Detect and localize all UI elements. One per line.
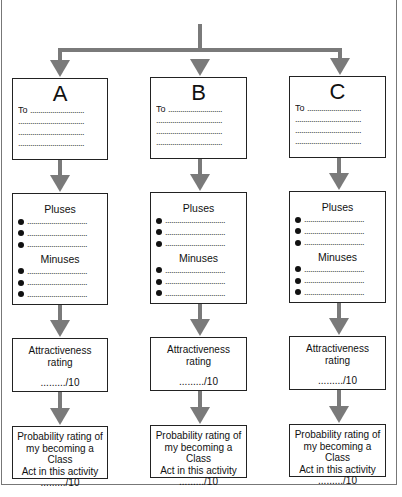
bullet-icon <box>156 229 162 235</box>
probability-score[interactable]: ........./10 <box>290 475 385 487</box>
blank-line[interactable]: ................................. <box>156 126 241 137</box>
probability-score[interactable]: ........./10 <box>13 477 107 489</box>
option-box-c: C To ........................... .......… <box>289 76 386 158</box>
minus-item[interactable]: .............................. <box>295 287 377 299</box>
plus-item[interactable]: .............................. <box>18 239 100 251</box>
plus-item[interactable]: .............................. <box>18 216 100 228</box>
arrow-head-icon <box>329 318 349 335</box>
to-field[interactable]: To ........................... <box>18 105 103 116</box>
arrow-stem <box>198 159 202 175</box>
arrow-stem <box>337 158 341 174</box>
pluses-heading: Pluses <box>151 202 246 214</box>
bullet-icon <box>156 241 162 247</box>
attractiveness-score[interactable]: ........./10 <box>13 377 107 389</box>
plus-item[interactable]: .............................. <box>295 214 377 226</box>
minus-item[interactable]: .............................. <box>18 277 100 289</box>
attractiveness-box-b: Attractiveness rating ........./10 <box>150 337 247 391</box>
arrow-head-icon <box>50 60 70 77</box>
pluses-minuses-box-c: Pluses .............................. ..… <box>289 191 386 303</box>
option-letter: A <box>13 83 107 105</box>
arrow-head-icon <box>190 59 210 76</box>
arrow-stem <box>198 304 202 320</box>
to-field[interactable]: To ........................... <box>156 104 241 115</box>
arrow-head-icon <box>329 406 349 423</box>
bullet-icon <box>156 290 162 296</box>
plus-item[interactable]: .............................. <box>295 237 377 249</box>
arrow-head-icon <box>50 408 70 425</box>
bullet-icon <box>18 280 24 286</box>
minuses-heading: Minuses <box>13 253 107 265</box>
plus-item[interactable]: .............................. <box>156 238 238 250</box>
root-arrow-stem <box>198 24 202 51</box>
minus-item[interactable]: .............................. <box>156 276 238 288</box>
probability-label: Probability rating of <box>13 431 107 443</box>
bullet-icon <box>156 218 162 224</box>
pluses-minuses-box-b: Pluses .............................. ..… <box>150 192 247 304</box>
bullet-icon <box>295 228 301 234</box>
option-box-a: A To ........................... .......… <box>12 78 108 160</box>
blank-line[interactable]: ................................. <box>295 114 380 125</box>
pluses-heading: Pluses <box>290 201 385 213</box>
branch-connector <box>58 48 342 52</box>
bullet-icon <box>295 278 301 284</box>
attractiveness-label: rating <box>13 357 107 369</box>
attractiveness-box-c: Attractiveness rating ........./10 <box>289 336 386 390</box>
arrow-head-icon <box>329 173 349 190</box>
option-box-b: B To ........................... .......… <box>150 77 247 159</box>
minus-item[interactable]: .............................. <box>156 265 238 277</box>
minus-item[interactable]: .............................. <box>156 288 238 300</box>
bullet-icon <box>18 242 24 248</box>
plus-item[interactable]: .............................. <box>156 227 238 239</box>
to-field[interactable]: To ........................... <box>295 103 380 114</box>
probability-label: Act in this activity <box>290 464 385 476</box>
minus-item[interactable]: .............................. <box>18 266 100 278</box>
arrow-stem <box>58 305 62 321</box>
arrow-head-icon <box>330 58 350 75</box>
bullet-icon <box>156 279 162 285</box>
probability-score[interactable]: ........./10 <box>151 476 246 488</box>
probability-label: my becoming a Class <box>151 442 246 465</box>
to-label: To <box>18 105 28 115</box>
bullet-icon <box>18 219 24 225</box>
blank-line[interactable]: ................................. <box>295 136 380 147</box>
blank-line[interactable]: ................................. <box>18 127 103 138</box>
attractiveness-label: Attractiveness <box>290 343 385 355</box>
minus-item[interactable]: .............................. <box>18 289 100 301</box>
bullet-icon <box>18 268 24 274</box>
arrow-head-icon <box>50 175 70 192</box>
plus-item[interactable]: .............................. <box>156 215 238 227</box>
option-letter: B <box>151 82 246 104</box>
attractiveness-box-a: Attractiveness rating ........./10 <box>12 338 108 392</box>
to-label: To <box>295 103 305 113</box>
minus-item[interactable]: .............................. <box>295 264 377 276</box>
arrow-head-icon <box>190 319 210 336</box>
arrow-stem <box>337 303 341 319</box>
plus-item[interactable]: .............................. <box>18 228 100 240</box>
attractiveness-score[interactable]: ........./10 <box>151 376 246 388</box>
probability-label: my becoming a Class <box>13 443 107 466</box>
attractiveness-score[interactable]: ........./10 <box>290 375 385 387</box>
to-blank: ........................... <box>307 103 361 113</box>
bullet-icon <box>295 266 301 272</box>
probability-label: my becoming a Class <box>290 441 385 464</box>
branch-stem-a <box>58 48 62 60</box>
plus-item[interactable]: .............................. <box>295 226 377 238</box>
blank-line[interactable]: ................................. <box>156 115 241 126</box>
to-blank: ........................... <box>30 105 84 115</box>
minuses-heading: Minuses <box>290 251 385 263</box>
pluses-minuses-box-a: Pluses .............................. ..… <box>12 193 108 305</box>
minus-item[interactable]: .............................. <box>295 275 377 287</box>
bullet-icon <box>295 289 301 295</box>
blank-line[interactable]: ................................. <box>18 138 103 149</box>
blank-line[interactable]: ................................. <box>295 125 380 136</box>
arrow-head-icon <box>190 174 210 191</box>
probability-label: Act in this activity <box>13 466 107 478</box>
probability-label: Probability rating of <box>151 430 246 442</box>
blank-line[interactable]: ................................. <box>18 116 103 127</box>
attractiveness-label: Attractiveness <box>151 344 246 356</box>
bullet-icon <box>295 240 301 246</box>
probability-box-b: Probability rating of my becoming a Clas… <box>150 425 247 478</box>
bullet-icon <box>156 267 162 273</box>
probability-label: Act in this activity <box>151 465 246 477</box>
blank-line[interactable]: ................................. <box>156 137 241 148</box>
